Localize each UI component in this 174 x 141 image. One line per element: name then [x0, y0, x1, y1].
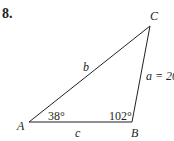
side-b-line — [29, 26, 150, 122]
vertex-label-a: A — [17, 120, 24, 132]
vertex-label-c: C — [150, 10, 158, 22]
angle-label-b: 102° — [109, 110, 132, 122]
vertex-label-b: B — [131, 127, 138, 139]
side-label-a: a = 20 — [146, 70, 174, 82]
side-a-value: a = 20 — [146, 69, 174, 83]
angle-label-a: 38° — [48, 110, 65, 122]
side-label-b: b — [83, 61, 89, 73]
side-label-c: c — [75, 127, 80, 139]
